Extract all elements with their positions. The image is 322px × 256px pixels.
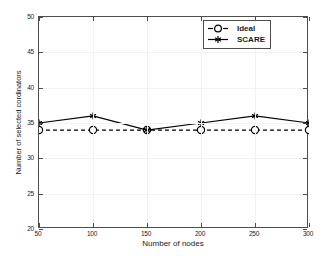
y-tick-mark	[39, 194, 43, 195]
x-axis-label: Number of nodes	[38, 239, 308, 248]
series-ideal	[39, 126, 309, 133]
grid-line-horizontal	[39, 88, 307, 89]
y-tick-label: 50	[0, 13, 34, 20]
grid-line-horizontal	[39, 123, 307, 124]
grid-line-vertical	[147, 17, 148, 227]
y-tick-mark	[303, 158, 307, 159]
legend-marker-scare	[207, 34, 233, 45]
y-tick-mark	[303, 17, 307, 18]
chart-figure: Number of selected cordinators 202530354…	[0, 0, 322, 256]
x-tick-mark	[201, 223, 202, 227]
y-tick-mark	[303, 52, 307, 53]
grid-line-horizontal	[39, 194, 307, 195]
x-tick-label: 100	[79, 230, 105, 237]
x-tick-label: 50	[25, 230, 51, 237]
y-tick-mark	[303, 123, 307, 124]
y-tick-mark	[39, 123, 43, 124]
x-tick-mark	[147, 17, 148, 21]
x-tick-mark	[93, 223, 94, 227]
y-tick-label: 45	[0, 48, 34, 55]
y-tick-mark	[303, 194, 307, 195]
x-tick-mark	[201, 17, 202, 21]
data-point-marker	[39, 126, 43, 133]
legend-label-scare: SCARE	[237, 35, 265, 44]
y-tick-mark	[39, 229, 43, 230]
x-tick-mark	[255, 223, 256, 227]
x-tick-mark	[309, 17, 310, 21]
y-tick-mark	[303, 229, 307, 230]
legend-item-ideal: Ideal	[207, 23, 265, 34]
legend-item-scare: SCARE	[207, 34, 265, 45]
y-tick-mark	[39, 158, 43, 159]
y-tick-label: 35	[0, 119, 34, 126]
x-tick-label: 250	[241, 230, 267, 237]
data-point-marker	[305, 126, 309, 133]
x-tick-mark	[93, 17, 94, 21]
y-tick-label: 40	[0, 83, 34, 90]
y-tick-mark	[39, 52, 43, 53]
x-tick-label: 300	[295, 230, 321, 237]
x-tick-mark	[309, 223, 310, 227]
x-tick-label: 150	[133, 230, 159, 237]
y-tick-mark	[303, 88, 307, 89]
grid-line-vertical	[93, 17, 94, 227]
grid-line-horizontal	[39, 52, 307, 53]
y-tick-label: 25	[0, 189, 34, 196]
legend-label-ideal: Ideal	[237, 24, 255, 33]
y-tick-mark	[39, 88, 43, 89]
x-tick-mark	[39, 223, 40, 227]
x-tick-label: 200	[187, 230, 213, 237]
legend-marker-ideal	[207, 23, 233, 34]
grid-line-vertical	[201, 17, 202, 227]
y-tick-label: 30	[0, 154, 34, 161]
chart-legend: Ideal SCARE	[203, 20, 271, 49]
x-tick-mark	[147, 223, 148, 227]
x-tick-mark	[39, 17, 40, 21]
grid-line-horizontal	[39, 158, 307, 159]
